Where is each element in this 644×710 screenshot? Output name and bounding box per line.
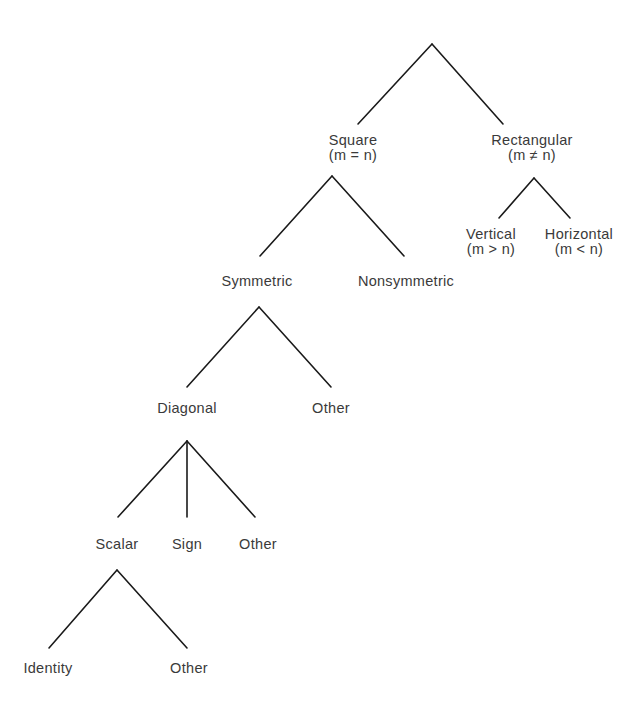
node-nonsymmetric-label: Nonsymmetric — [358, 273, 454, 289]
node-other-scalar-label: Other — [170, 660, 208, 676]
edge-scalar-to-identity — [49, 570, 117, 648]
edge-diagonal-to-scalar — [118, 441, 187, 517]
edge-symmetric-to-diagonal — [187, 307, 259, 387]
edge-root-to-square — [358, 44, 432, 124]
edge-rectangular-to-horizontal — [534, 178, 570, 218]
edge-scalar-to-other_scalar — [117, 570, 187, 648]
node-vertical-label: Vertical — [466, 226, 516, 242]
node-sign-label: Sign — [172, 536, 202, 552]
node-other-symmetric-label: Other — [312, 400, 350, 416]
node-rectangular-label: Rectangular — [491, 132, 573, 148]
node-sign: Sign — [172, 537, 202, 552]
node-other-diagonal: Other — [239, 537, 277, 552]
node-other-diagonal-label: Other — [239, 536, 277, 552]
node-diagonal-label: Diagonal — [157, 400, 217, 416]
node-other-scalar: Other — [170, 661, 208, 676]
edge-diagonal-to-other_diagonal — [187, 441, 255, 517]
node-vertical: Vertical (m > n) — [466, 227, 516, 257]
node-nonsymmetric: Nonsymmetric — [358, 274, 454, 289]
node-square-label: Square — [329, 132, 378, 148]
node-symmetric: Symmetric — [221, 274, 292, 289]
classification-tree-edges — [0, 0, 644, 710]
node-square-condition: (m = n) — [329, 148, 378, 163]
node-horizontal-label: Horizontal — [545, 226, 613, 242]
node-rectangular-condition: (m ≠ n) — [491, 148, 573, 163]
node-identity-label: Identity — [23, 660, 72, 676]
node-identity: Identity — [23, 661, 72, 676]
edge-root-to-rectangular — [432, 44, 503, 124]
node-horizontal: Horizontal (m < n) — [545, 227, 613, 257]
node-rectangular: Rectangular (m ≠ n) — [491, 133, 573, 163]
node-diagonal: Diagonal — [157, 401, 217, 416]
edge-square-to-nonsymmetric — [332, 176, 404, 256]
node-other-symmetric: Other — [312, 401, 350, 416]
edge-square-to-symmetric — [260, 176, 332, 256]
node-square: Square (m = n) — [329, 133, 378, 163]
node-symmetric-label: Symmetric — [221, 273, 292, 289]
node-vertical-condition: (m > n) — [466, 242, 516, 257]
node-scalar-label: Scalar — [96, 536, 139, 552]
edge-rectangular-to-vertical — [499, 178, 534, 218]
node-horizontal-condition: (m < n) — [545, 242, 613, 257]
node-scalar: Scalar — [96, 537, 139, 552]
edge-symmetric-to-other_symmetric — [259, 307, 331, 387]
